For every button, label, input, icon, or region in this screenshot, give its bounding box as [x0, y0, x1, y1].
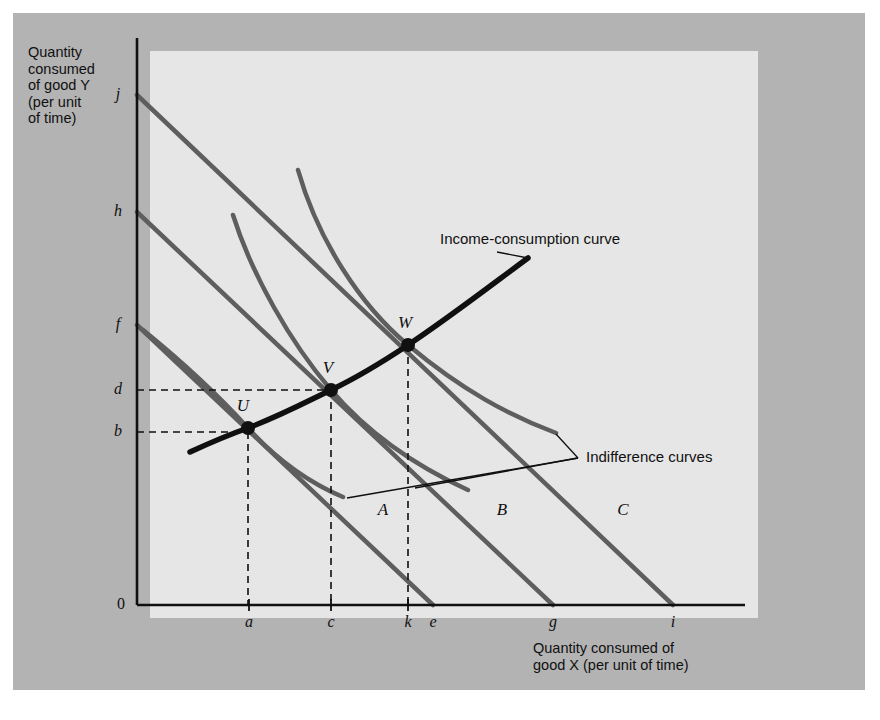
figure-root: Quantity consumed of good Y (per unit of…: [0, 0, 880, 720]
point-label-w: W: [393, 313, 417, 333]
point-marker-u: [241, 421, 255, 435]
x-axis-label: Quantity consumed of good X (per unit of…: [533, 640, 763, 673]
leader-line-3: [556, 434, 578, 458]
budget-line-label-a: A: [371, 500, 395, 520]
indifference-curves-label: Indifference curves: [586, 448, 712, 465]
y-tick-label-f: f: [107, 315, 129, 333]
income-curve-leader-line: [497, 252, 528, 258]
projection-lines: [137, 345, 408, 605]
leader-line-2: [415, 458, 578, 488]
x-tick-label-e: e: [422, 613, 444, 631]
y-tick-label-b: b: [107, 422, 129, 440]
point-marker-v: [324, 383, 338, 397]
origin-label: 0: [112, 595, 130, 613]
x-tick-label-a: a: [238, 613, 260, 631]
x-tick-label-k: k: [397, 613, 419, 631]
budget-line-label-b: B: [490, 500, 514, 520]
point-marker-w: [401, 338, 415, 352]
point-label-v: V: [316, 358, 340, 378]
budget-line-label-c: C: [611, 500, 635, 520]
x-tick-label-g: g: [542, 613, 564, 631]
x-tick-label-i: i: [662, 613, 684, 631]
y-tick-label-d: d: [107, 380, 129, 398]
y-tick-label-j: j: [107, 85, 129, 103]
income-consumption-curve-label: Income-consumption curve: [440, 230, 620, 247]
point-label-u: U: [231, 396, 255, 416]
y-tick-label-h: h: [107, 202, 129, 220]
x-tick-label-c: c: [320, 613, 342, 631]
